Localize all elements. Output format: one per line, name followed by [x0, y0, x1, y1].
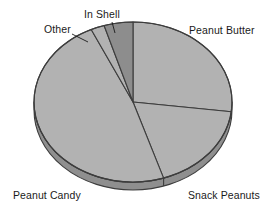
slice-label-other: Other — [44, 24, 71, 36]
pie-chart: Other In Shell Peanut Butter Peanut Cand… — [0, 0, 271, 218]
pie-slices — [34, 22, 232, 182]
slice-label-snack-peanuts: Snack Peanuts — [188, 190, 260, 202]
slice-label-in-shell: In Shell — [84, 9, 120, 21]
slice-label-peanut-candy: Peanut Candy — [13, 190, 81, 202]
slice-label-peanut-butter: Peanut Butter — [189, 25, 255, 37]
